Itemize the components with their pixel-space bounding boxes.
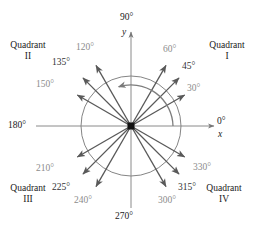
quadrant-numeral-II: II <box>4 51 52 62</box>
quadrant-numeral-III: III <box>4 194 52 205</box>
angle-label-210: 210° <box>36 164 54 174</box>
quadrant-word-IV: Quadrant <box>200 183 248 194</box>
quadrant-word-II: Quadrant <box>4 40 52 51</box>
quadrant-label-III: Quadrant III <box>4 183 52 205</box>
angle-label-330: 330° <box>193 163 211 173</box>
axis-label-90: 90° <box>120 13 133 23</box>
y-axis-label: y <box>122 28 126 38</box>
axis-label-270: 270° <box>115 212 133 222</box>
quadrant-label-I: Quadrant I <box>203 40 251 62</box>
axis-label-180: 180° <box>8 121 26 131</box>
axis-label-0: 0° <box>217 117 226 127</box>
angle-label-240: 240° <box>74 196 92 206</box>
quadrant-word-I: Quadrant <box>203 40 251 51</box>
angle-label-60: 60° <box>163 45 176 55</box>
angle-label-300: 300° <box>158 196 176 206</box>
angle-label-225: 225° <box>52 183 70 193</box>
quadrant-numeral-I: I <box>203 51 251 62</box>
origin-point <box>128 123 135 130</box>
angle-label-135: 135° <box>52 58 70 68</box>
x-axis-label: x <box>218 130 222 140</box>
angle-label-150: 150° <box>36 80 54 90</box>
angle-label-45: 45° <box>182 62 195 72</box>
quadrant-label-IV: Quadrant IV <box>200 183 248 205</box>
quadrant-numeral-IV: IV <box>200 194 248 205</box>
quadrant-label-II: Quadrant II <box>4 40 52 62</box>
angle-label-30: 30° <box>187 84 200 94</box>
angle-label-120: 120° <box>76 43 94 53</box>
quadrant-word-III: Quadrant <box>4 183 52 194</box>
angle-label-315: 315° <box>178 183 196 193</box>
